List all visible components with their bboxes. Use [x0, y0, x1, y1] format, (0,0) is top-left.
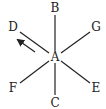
line-af	[20, 61, 49, 83]
line-ad	[20, 32, 49, 53]
label-c: C	[50, 96, 59, 109]
arrow-toward-d-icon	[18, 40, 35, 52]
diagram-canvas: A B C D E F G	[0, 0, 106, 109]
label-e: E	[92, 81, 101, 95]
label-a: A	[50, 50, 60, 64]
line-ag	[61, 32, 90, 53]
line-ae	[61, 61, 90, 83]
label-b: B	[51, 1, 60, 15]
label-d: D	[8, 20, 18, 34]
label-f: F	[9, 81, 17, 95]
radial-lines-diagram: A B C D E F G	[0, 0, 106, 109]
label-g: G	[91, 20, 101, 34]
